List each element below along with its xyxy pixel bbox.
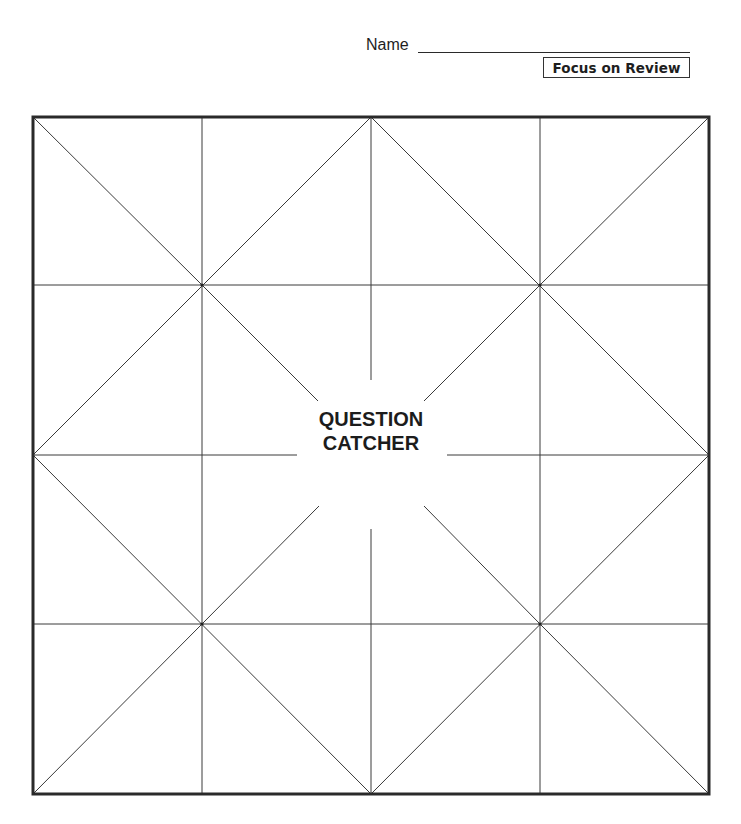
inner-diagonal-br [424,506,540,624]
worksheet-title: QUESTION CATCHER [296,407,446,455]
inner-diagonal-bl [202,506,319,624]
diagonal-bl [33,624,202,794]
title-line-2: CATCHER [296,431,446,455]
title-line-1: QUESTION [296,407,446,431]
inner-diagonal-tl [202,285,318,401]
diagonal-br [540,624,709,794]
inner-diagonal-tr [424,285,540,401]
diagonal-tr [540,117,709,285]
diagonal-tl [33,117,202,285]
